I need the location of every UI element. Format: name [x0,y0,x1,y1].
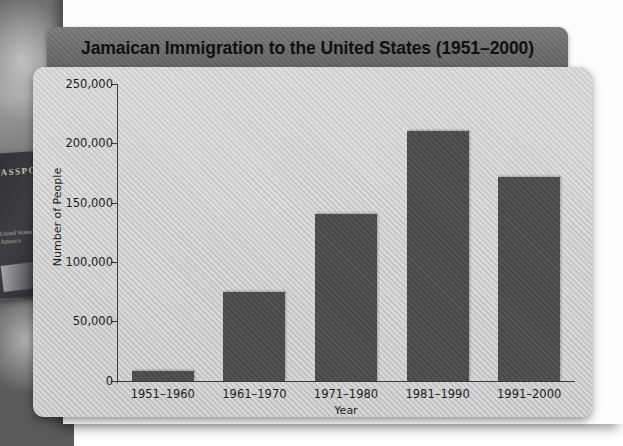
y-axis-tick-label: 100,000 [65,255,113,269]
bar [132,371,194,380]
x-axis-title: Year [334,404,357,417]
y-axis-tick-label: 200,000 [65,136,113,150]
x-axis-line [117,381,575,383]
x-axis-tick-label: 1971–1980 [314,387,378,401]
x-axis-tick-label: 1981–1990 [405,387,469,401]
bar [223,292,285,381]
y-axis-tick-label: 50,000 [73,314,113,328]
y-axis-tick-label: 250,000 [65,77,113,91]
x-axis-tick-label: 1951–1960 [131,387,195,401]
y-axis-tick-label: 150,000 [65,196,113,210]
chart-title: Jamaican Immigration to the United State… [81,38,534,59]
bar [407,131,469,380]
chart-title-bar: Jamaican Immigration to the United State… [47,27,568,69]
bar [498,177,560,381]
x-axis-tick-label: 1991–2000 [497,387,561,401]
bar [315,214,377,380]
y-axis-tick-label: 0 [106,374,113,388]
passport-seal-icon [4,189,36,221]
y-axis-line [117,84,118,383]
x-axis-tick-label: 1961–1970 [222,387,286,401]
chart-panel: Number of People 050,000100,000150,00020… [33,67,592,417]
y-axis-title: Number of People [51,168,64,266]
plot-area: 050,000100,000150,000200,000250,000 1951… [117,84,575,382]
